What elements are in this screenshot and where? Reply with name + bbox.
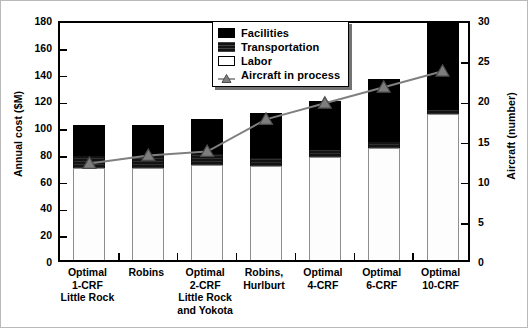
y-axis-left-tick-labels: 180160140120100806040200 [22, 0, 52, 328]
y-axis-right-tick: 0 [478, 257, 508, 268]
y-axis-right-tick: 20 [478, 96, 508, 107]
y-axis-left-tick: 120 [22, 96, 52, 107]
y-axis-left-tick: 100 [22, 123, 52, 134]
labor-swatch-icon [218, 56, 235, 66]
legend-item-transportation: Transportation [218, 40, 340, 54]
legend-label-labor: Labor [241, 55, 272, 67]
y-axis-left-tick: 80 [22, 150, 52, 161]
y-axis-left-tick: 40 [22, 203, 52, 214]
legend-label-transportation: Transportation [241, 41, 319, 53]
y-axis-left-tick: 160 [22, 43, 52, 54]
legend-label-aircraft-in-process: Aircraft in process [241, 69, 340, 81]
legend-item-facilities: Facilities [218, 26, 340, 40]
legend-item-labor: Labor [218, 54, 340, 68]
x-axis-category-line: Optimal [405, 266, 476, 279]
facilities-swatch-icon [218, 28, 235, 38]
x-axis-category-line: Little Rock [52, 291, 123, 304]
x-axis-category-line: and Yokota [170, 304, 241, 317]
x-axis-category-label: Optimal10-CRF [405, 266, 476, 291]
y-axis-left-tick: 140 [22, 70, 52, 81]
transportation-swatch-icon [218, 42, 235, 52]
chart-container: Annual cost ($M) Aircraft (number) 18016… [0, 0, 528, 328]
y-axis-right-tick: 5 [478, 217, 508, 228]
y-axis-right-tick: 25 [478, 56, 508, 67]
y-axis-right-tick-labels: 302520151050 [478, 0, 508, 328]
chart-legend: Facilities Transportation Labor Aircraft… [212, 21, 349, 87]
line-marker [436, 65, 449, 76]
y-axis-right-tick: 10 [478, 177, 508, 188]
x-axis-category-line: Little Rock [170, 291, 241, 304]
legend-item-aircraft-in-process: Aircraft in process [218, 68, 340, 82]
y-axis-left-tick: 180 [22, 16, 52, 27]
line-marker [201, 145, 214, 156]
legend-label-facilities: Facilities [241, 27, 289, 39]
x-axis-category-labels: Optimal1-CRFLittle RockRobinsOptimal2-CR… [58, 266, 470, 328]
y-axis-left-tick: 20 [22, 230, 52, 241]
aircraft-marker-icon [218, 70, 235, 80]
x-axis-category-line: 10-CRF [405, 279, 476, 292]
y-axis-right-tick: 15 [478, 137, 508, 148]
y-axis-left-tick: 0 [22, 257, 52, 268]
y-axis-right-tick: 30 [478, 16, 508, 27]
y-axis-left-tick: 60 [22, 177, 52, 188]
x-axis-category-line: 1-CRF [52, 279, 123, 292]
